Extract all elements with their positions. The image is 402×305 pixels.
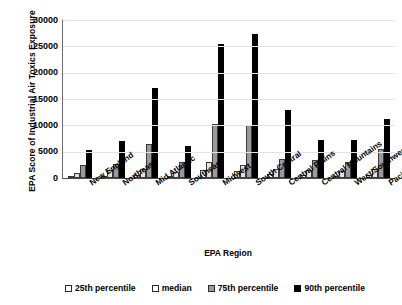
y-axis-tick-30000: 30000	[33, 16, 58, 25]
x-axis-tick-southeast: Southeast	[187, 180, 192, 187]
y-axis-tick-15000: 15000	[33, 95, 58, 104]
y-axis-tick-0: 0	[53, 174, 58, 183]
x-axis-tick-central-plains: Central Plains	[287, 180, 292, 187]
legend-swatch-icon	[65, 285, 72, 292]
x-axis-tick-northeast: Northeast	[121, 180, 126, 187]
legend-label: median	[162, 283, 192, 293]
gridline	[63, 20, 395, 21]
x-axis-tick-central-mountains: Central Mountains	[320, 180, 325, 187]
bar-90th-percentile[interactable]	[86, 150, 92, 178]
bar-90th-percentile[interactable]	[252, 34, 258, 178]
x-axis-tick-labels: New EnglandNortheastMid AtlanticSoutheas…	[62, 180, 394, 242]
y-axis-tick-25000: 25000	[33, 42, 58, 51]
plot-area	[62, 20, 395, 179]
legend-item-25th-percentile[interactable]: 25th percentile	[65, 283, 136, 293]
legend-swatch-icon	[294, 285, 301, 292]
legend-item-90th-percentile[interactable]: 90th percentile	[294, 283, 365, 293]
legend-swatch-icon	[152, 285, 159, 292]
gridline	[63, 152, 395, 153]
legend-item-75th-percentile[interactable]: 75th percentile	[208, 283, 279, 293]
y-axis-tick-labels: 050001000015000200002500030000	[14, 14, 58, 184]
gridline	[63, 99, 395, 100]
gridline	[63, 46, 395, 47]
x-axis-title: EPA Region	[62, 248, 394, 258]
bar-90th-percentile[interactable]	[384, 119, 390, 179]
x-axis-tick-midwest: Midwest	[221, 180, 226, 187]
x-axis-tick-south-central: South Central	[254, 180, 259, 187]
x-axis-tick-mid-atlantic: Mid Atlantic	[154, 180, 159, 187]
gridline	[63, 73, 395, 74]
x-axis-tick-west-southwest: West/Southwest	[353, 180, 358, 187]
x-axis-tick-pacific-northwest: Pacific Northwest	[387, 180, 392, 187]
legend-label: 90th percentile	[304, 283, 365, 293]
chart-legend: 25th percentilemedian75th percentile90th…	[40, 283, 390, 293]
x-axis-tick-new-england: New England	[88, 180, 93, 187]
legend-label: 25th percentile	[75, 283, 136, 293]
legend-swatch-icon	[208, 285, 215, 292]
y-axis-tick-5000: 5000	[38, 147, 58, 156]
legend-label: 75th percentile	[218, 283, 279, 293]
gridline	[63, 125, 395, 126]
legend-item-median[interactable]: median	[152, 283, 192, 293]
y-axis-tick-20000: 20000	[33, 68, 58, 77]
y-axis-tick-10000: 10000	[33, 121, 58, 130]
chart-container: EPA Score of Industrial Air Toxics Expos…	[0, 0, 402, 305]
